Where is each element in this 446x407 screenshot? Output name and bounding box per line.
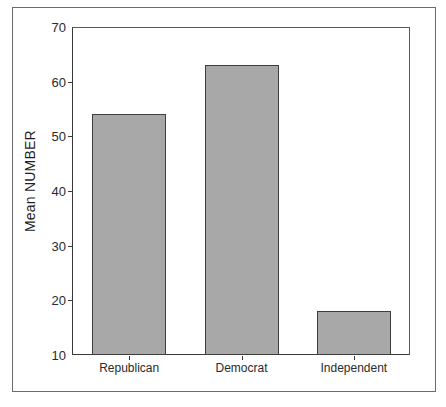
y-axis-tick-label: 20 [26, 294, 66, 307]
x-axis-tick-mark [129, 356, 130, 360]
y-axis-tick-label: 60 [26, 75, 66, 88]
y-axis-tick-label: 10 [26, 349, 66, 362]
y-axis-title: Mean NUMBER [22, 214, 38, 232]
y-axis-tick-mark [68, 300, 73, 301]
bar [92, 114, 166, 355]
bar [317, 311, 391, 355]
x-axis-tick-mark [354, 356, 355, 360]
x-axis-tick-mark [242, 356, 243, 360]
bar-chart-figure: 10203040506070 Mean NUMBER RepublicanDem… [0, 0, 446, 407]
y-axis-tick-mark [68, 246, 73, 247]
y-axis-tick-mark [68, 136, 73, 137]
bar [205, 65, 279, 355]
x-axis-category-label: Independent [320, 361, 387, 375]
plot-area [73, 27, 410, 355]
y-axis-tick-label: 30 [26, 239, 66, 252]
y-axis-tick-mark [68, 82, 73, 83]
x-axis-category-label: Democrat [215, 361, 267, 375]
y-axis-tick-mark [68, 191, 73, 192]
x-axis-category-label: Republican [99, 361, 159, 375]
y-axis-tick-label: 70 [26, 21, 66, 34]
